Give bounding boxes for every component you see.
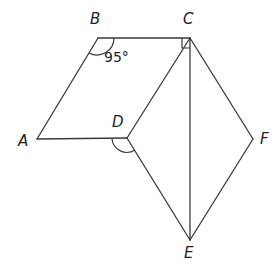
segment-ab [37,38,98,139]
segment-cd [127,38,190,138]
diagram-canvas: A B C D E F 95° [0,0,280,270]
label-b: B [90,10,100,28]
label-f: F [260,130,269,148]
segments [37,38,253,240]
point-labels: A B C D E F 95° [17,10,269,262]
angle-label-b: 95° [104,49,129,65]
geometry-diagram: A B C D E F 95° [0,0,280,270]
label-c: C [183,10,194,28]
segment-fe [190,139,253,240]
label-e: E [184,244,194,262]
segment-cf [190,38,253,139]
segment-ad [37,138,127,139]
label-a: A [17,132,28,150]
label-d: D [112,113,124,131]
segment-de [127,138,190,240]
